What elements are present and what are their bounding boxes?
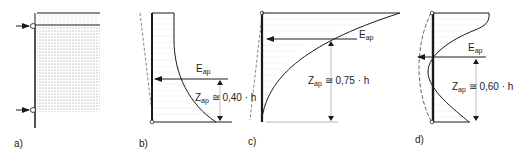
top-support-icon [31, 24, 36, 29]
panel-b-label: b) [139, 139, 148, 149]
panel-b-lever-label: Zap ≅ 0,40 · h [195, 93, 256, 104]
panel-c-label: c) [248, 137, 256, 147]
panel-b-diagram [140, 13, 232, 124]
panel-c-force-label: Eap [359, 30, 373, 41]
panel-a-label: a) [14, 139, 23, 149]
panel-b-force-label: Eap [196, 64, 210, 75]
panel-c-lever-label: Zap ≅ 0,75 · h [308, 76, 369, 87]
panel-d-force-label: Eap [468, 43, 482, 54]
bottom-support-icon [31, 108, 36, 113]
earth-pressure-diagram [0, 0, 520, 155]
panel-d-lever-label: Zap ≅ 0,60 · h [452, 82, 513, 93]
panel-a-wall-soil [16, 13, 100, 128]
panel-d-label: d) [415, 135, 424, 145]
panel-d-diagram [418, 11, 489, 124]
panel-c-diagram [250, 11, 400, 122]
